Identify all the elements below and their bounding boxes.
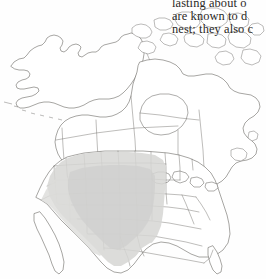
north-america-range-map: [0, 0, 266, 279]
range-map-page: lasting about o are known to d nest; the…: [0, 0, 266, 279]
map-svg: [0, 0, 266, 279]
body-text-column: lasting about o are known to d nest; the…: [172, 0, 266, 37]
body-text-line-3: nest; they also c: [172, 23, 266, 36]
